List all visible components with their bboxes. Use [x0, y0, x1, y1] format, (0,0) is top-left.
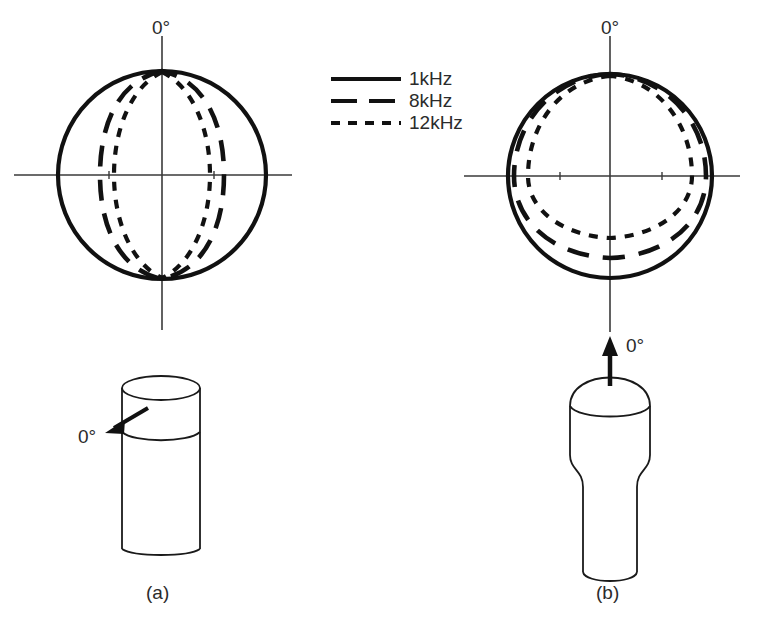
legend-sample-12khz — [331, 121, 401, 125]
panel-a-mic-capsule-seam — [122, 432, 200, 440]
panel-b-mic-shoulder-right — [637, 455, 650, 487]
panel-b-mic-shoulder-left — [570, 455, 583, 487]
legend-sample-1khz — [331, 77, 401, 81]
panel-a-caption: (a) — [146, 583, 169, 602]
legend-row-8khz: 8kHz — [331, 90, 481, 110]
legend-sample-8khz — [331, 99, 401, 103]
panel-b-mic-handle-bottom — [583, 572, 637, 581]
panel-a-microphone-illustration — [122, 376, 200, 555]
panel-b-axis-zero-label: 0° — [601, 18, 619, 37]
frequency-legend: 1kHz 8kHz 12kHz — [331, 68, 481, 134]
panel-a-zero-degree-arrow — [105, 408, 148, 434]
panel-a-mic-zero-label: 0° — [78, 427, 96, 446]
legend-label-12khz: 12kHz — [409, 112, 463, 134]
panel-b-caption: (b) — [596, 583, 619, 602]
panel-a-arrow-head — [105, 420, 125, 434]
panel-a-mic-top-ellipse — [122, 376, 200, 400]
legend-row-12khz: 12kHz — [331, 112, 481, 132]
panel-b-polar-plot — [464, 36, 740, 332]
panel-a-mic-body-bottom — [122, 549, 200, 555]
panel-b-mic-zero-label: 0° — [626, 336, 644, 355]
panel-b-mic-dome-seam — [570, 406, 650, 417]
legend-label-8khz: 8kHz — [409, 90, 452, 112]
panel-b-microphone-illustration — [570, 378, 650, 582]
panel-a-axis-zero-label: 0° — [152, 18, 170, 37]
panel-b-arrow-head — [602, 336, 618, 356]
panel-a-polar-plot — [14, 36, 292, 330]
legend-label-1khz: 1kHz — [409, 68, 452, 90]
legend-row-1khz: 1kHz — [331, 68, 481, 88]
